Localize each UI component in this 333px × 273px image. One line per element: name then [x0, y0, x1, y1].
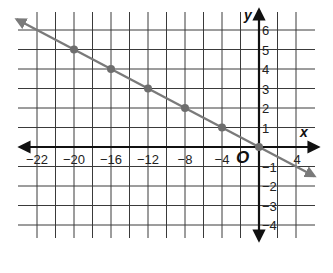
data-point: [107, 65, 115, 73]
x-tick-label: −8: [178, 152, 193, 167]
x-axis-label: x: [299, 124, 309, 140]
x-tick-label: −16: [100, 152, 122, 167]
y-tick-label: −3: [262, 199, 277, 214]
data-point: [255, 143, 263, 151]
coordinate-plane: −22−20−16−12−8−44654321−1−2−3−4 x y O: [0, 0, 333, 273]
y-tick-label: 2: [262, 101, 269, 116]
data-series: [17, 19, 315, 176]
y-tick-label: 3: [262, 82, 269, 97]
data-point: [218, 124, 226, 132]
y-tick-label: −1: [262, 160, 277, 175]
y-tick-label: −4: [262, 218, 277, 233]
x-tick-label: −22: [26, 152, 48, 167]
x-tick-label: −20: [63, 152, 85, 167]
y-tick-label: −2: [262, 179, 277, 194]
y-tick-label: 5: [262, 43, 269, 58]
y-tick-label: 4: [262, 62, 269, 77]
data-point: [181, 104, 189, 112]
data-point: [70, 46, 78, 54]
x-tick-label: −4: [215, 152, 230, 167]
y-tick-label: 1: [262, 121, 269, 136]
y-tick-label: 6: [262, 23, 269, 38]
y-axis-label: y: [243, 7, 253, 23]
x-tick-label: −12: [137, 152, 159, 167]
origin-label: O: [236, 148, 249, 167]
data-line: [17, 19, 315, 176]
data-point: [144, 85, 152, 93]
